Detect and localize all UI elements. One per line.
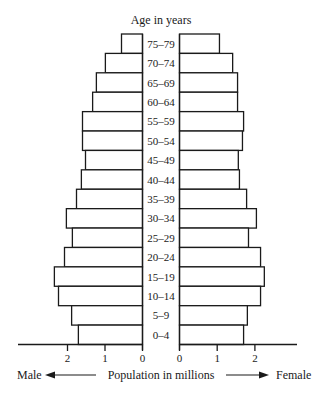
female-bar bbox=[180, 189, 247, 208]
age-group-label: 70–74 bbox=[147, 57, 175, 69]
female-bar bbox=[180, 286, 261, 305]
population-pyramid-chart: Age in years 75–7970–7465–6960–6455–5950… bbox=[0, 0, 323, 400]
age-group-label: 5–9 bbox=[153, 309, 170, 321]
male-tick-label: 1 bbox=[102, 352, 108, 364]
age-group-label: 55–59 bbox=[147, 115, 175, 127]
female-bar bbox=[180, 267, 265, 286]
male-tick-label: 0 bbox=[140, 352, 146, 364]
left-arrow-icon bbox=[45, 372, 96, 379]
male-bar bbox=[54, 267, 142, 286]
male-bar bbox=[93, 92, 143, 111]
male-bar bbox=[72, 228, 142, 247]
male-bar bbox=[83, 131, 143, 150]
female-bar bbox=[180, 228, 249, 247]
male-bars bbox=[54, 34, 142, 345]
age-group-label: 45–49 bbox=[147, 154, 175, 166]
age-group-label: 30–34 bbox=[147, 212, 175, 224]
age-group-label: 35–39 bbox=[147, 193, 175, 205]
female-tick-label: 1 bbox=[214, 352, 220, 364]
female-bar bbox=[180, 325, 244, 344]
male-bar bbox=[83, 112, 143, 131]
female-bars bbox=[180, 34, 265, 345]
age-group-label: 65–69 bbox=[147, 77, 175, 89]
age-group-label: 20–24 bbox=[147, 251, 175, 263]
male-bar bbox=[66, 209, 142, 228]
x-axis-title: Population in millions bbox=[108, 368, 215, 382]
male-bar bbox=[81, 170, 142, 189]
age-group-label: 10–14 bbox=[147, 290, 175, 302]
female-bar bbox=[180, 112, 244, 131]
female-label: Female bbox=[276, 368, 311, 382]
female-bar bbox=[180, 34, 220, 53]
male-label: Male bbox=[17, 368, 42, 382]
male-bar bbox=[122, 34, 143, 53]
age-group-label: 75–79 bbox=[147, 38, 175, 50]
female-bar bbox=[180, 73, 238, 92]
axis-ticks: 210012 bbox=[65, 345, 258, 365]
male-bar bbox=[96, 73, 142, 92]
female-bar bbox=[180, 53, 233, 72]
age-group-label: 25–29 bbox=[147, 232, 175, 244]
age-axis-title: Age in years bbox=[131, 13, 192, 27]
age-group-label: 60–64 bbox=[147, 96, 175, 108]
female-bar bbox=[180, 306, 248, 325]
female-bar bbox=[180, 209, 257, 228]
female-bar bbox=[180, 92, 238, 111]
female-tick-label: 0 bbox=[177, 352, 183, 364]
female-bar bbox=[180, 131, 243, 150]
age-group-label: 50–54 bbox=[147, 135, 175, 147]
female-bar bbox=[180, 247, 261, 266]
age-group-label: 0–4 bbox=[153, 329, 170, 341]
right-arrow-icon bbox=[226, 372, 269, 379]
age-group-label: 40–44 bbox=[147, 174, 175, 186]
male-tick-label: 2 bbox=[65, 352, 71, 364]
female-bar bbox=[180, 170, 240, 189]
female-bar bbox=[180, 150, 239, 169]
male-bar bbox=[59, 286, 143, 305]
male-bar bbox=[86, 150, 143, 169]
male-bar bbox=[72, 306, 143, 325]
male-bar bbox=[65, 247, 143, 266]
male-bar bbox=[78, 325, 142, 344]
male-bar bbox=[77, 189, 143, 208]
male-bar bbox=[105, 53, 142, 72]
female-tick-label: 2 bbox=[252, 352, 258, 364]
age-group-labels: 75–7970–7465–6960–6455–5950–5445–4940–44… bbox=[147, 38, 175, 341]
age-group-label: 15–19 bbox=[147, 271, 175, 283]
